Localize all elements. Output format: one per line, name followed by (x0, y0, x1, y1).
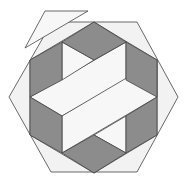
figure-canvas: Hexagonal tiling puzzle (0, 0, 186, 182)
hexagon-diagram (0, 0, 186, 182)
